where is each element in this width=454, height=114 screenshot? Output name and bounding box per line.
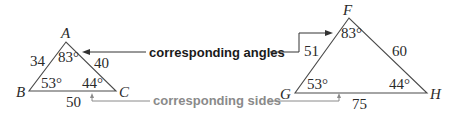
vertex-b: B [16,84,25,100]
vertex-c: C [119,84,130,100]
vertex-g: G [280,86,291,102]
arrowhead-right-icon [325,30,333,36]
side-ab: 34 [30,53,46,69]
side-bc: 50 [66,94,81,110]
arrowhead-up-right-icon [337,93,341,98]
angle-c: 44° [82,75,103,91]
angle-a: 83° [58,49,79,65]
side-gh: 75 [352,96,367,112]
callout-corresponding-angles: corresponding angles [149,45,285,60]
similar-triangles-diagram: A B C 34 40 50 83° 53° 44° F G H 51 60 7… [0,0,454,114]
side-fg: 51 [304,43,319,59]
vertex-h: H [429,86,442,102]
vertex-f: F [342,2,353,18]
angle-g: 53° [307,76,328,92]
side-ac: 40 [94,55,109,71]
arrowhead-up-left-icon [90,93,94,98]
callout-corresponding-sides: corresponding sides [153,93,281,108]
angle-h: 44° [389,76,410,92]
angle-b: 53° [41,75,62,91]
arrowhead-left-icon [82,49,90,55]
side-fh: 60 [392,43,407,59]
vertex-a: A [60,25,71,41]
angle-f: 83° [341,25,362,41]
